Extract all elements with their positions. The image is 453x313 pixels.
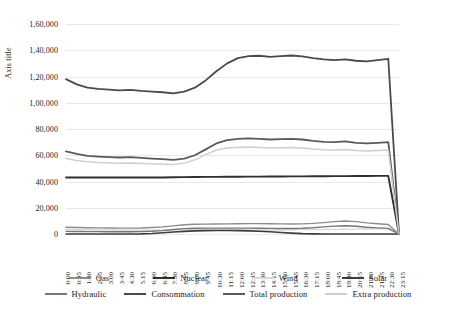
legend-swatch: [223, 293, 245, 295]
legend-label: Extra production: [352, 289, 411, 299]
y-axis-tick-label: 1,20,000: [29, 72, 58, 81]
legend-item[interactable]: Hydraulic: [45, 289, 107, 299]
legend-swatch: [45, 293, 67, 295]
y-axis-tick-label: 1,00,000: [29, 98, 58, 107]
x-axis-tick-labels: 0:000:451:302:153:003:454:305:156:006:45…: [66, 236, 399, 272]
legend-swatch: [69, 277, 91, 279]
legend-item[interactable]: Total production: [223, 289, 308, 299]
legend-item[interactable]: Extra production: [325, 289, 411, 299]
legend-label: Solar: [369, 273, 387, 283]
legend-item[interactable]: Nuclear: [153, 273, 208, 283]
plot-area: [66, 24, 399, 234]
legend-label: Wind: [279, 273, 298, 283]
legend-item[interactable]: Wind: [252, 273, 298, 283]
legend-swatch: [124, 293, 146, 295]
legend-swatch: [342, 277, 364, 279]
legend-label: Consommation: [151, 289, 204, 299]
legend-label: Total production: [250, 289, 308, 299]
legend-row: GasNuclearWindSolar: [22, 270, 434, 286]
series-layer: [66, 24, 399, 234]
legend-label: Nuclear: [180, 273, 208, 283]
chart-container: Axis title 1,60,0001,40,0001,20,0001,00,…: [0, 0, 453, 313]
legend-item[interactable]: Consommation: [124, 289, 204, 299]
legend-swatch: [153, 277, 175, 279]
legend-label: Gas: [96, 273, 110, 283]
legend-row: HydraulicConsommationTotal productionExt…: [22, 286, 434, 302]
legend-label: Hydraulic: [72, 289, 107, 299]
y-axis-tick-label: 80,000: [35, 125, 58, 134]
y-axis-tick-label: 0: [54, 230, 58, 239]
chart-legend: GasNuclearWindSolarHydraulicConsommation…: [22, 270, 434, 308]
legend-swatch: [325, 293, 347, 295]
y-axis-tick-label: 1,60,000: [29, 20, 58, 29]
series-line: [66, 56, 399, 235]
y-axis-tick-label: 20,000: [35, 203, 58, 212]
y-axis-tick-label: 60,000: [35, 151, 58, 160]
legend-item[interactable]: Gas: [69, 273, 110, 283]
y-axis-tick-labels: 1,60,0001,40,0001,20,0001,00,00080,00060…: [0, 24, 62, 234]
y-axis-tick-label: 40,000: [35, 177, 58, 186]
y-axis-tick-label: 1,40,000: [29, 46, 58, 55]
legend-swatch: [252, 277, 274, 279]
series-line: [66, 138, 399, 234]
legend-item[interactable]: Solar: [342, 273, 387, 283]
